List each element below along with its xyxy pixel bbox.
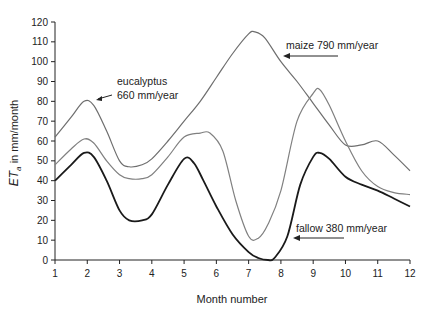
- x-tick-label: 7: [246, 268, 252, 279]
- y-tick-label: 0: [42, 255, 48, 266]
- annotation-maize: maize 790 mm/year: [283, 39, 379, 59]
- tick-labels: 0102030405060708090100110120123456789101…: [31, 17, 416, 280]
- y-tick-label: 100: [31, 56, 48, 67]
- x-tick-label: 10: [340, 268, 352, 279]
- y-tick-label: 20: [37, 215, 49, 226]
- annotation-fallow: fallow 380 mm/year: [293, 222, 388, 241]
- series-line-eucalyptus: [55, 88, 410, 240]
- arrow-head-icon: [293, 235, 300, 241]
- x-tick-label: 5: [181, 268, 187, 279]
- x-tick-label: 4: [149, 268, 155, 279]
- annotation-maize-text: maize 790 mm/year: [286, 39, 379, 51]
- y-tick-label: 80: [37, 96, 49, 107]
- x-tick-label: 9: [310, 268, 316, 279]
- annotation-eucalyptus: eucalyptus 660 mm/year: [96, 75, 179, 101]
- x-tick-label: 8: [278, 268, 284, 279]
- arrow-head-icon: [283, 53, 290, 59]
- y-tick-label: 70: [37, 116, 49, 127]
- series-line-maize: [55, 31, 410, 170]
- annotation-eucalyptus-line1: eucalyptus: [117, 75, 167, 87]
- x-tick-label: 2: [84, 268, 90, 279]
- y-tick-label: 120: [31, 17, 48, 28]
- y-label-rest: in mm/month: [8, 100, 20, 167]
- y-tick-label: 110: [32, 36, 48, 47]
- annotation-eucalyptus-line2: 660 mm/year: [117, 89, 179, 101]
- x-tick-label: 3: [117, 268, 123, 279]
- y-tick-label: 30: [37, 195, 49, 206]
- x-axis-label: Month number: [197, 293, 268, 305]
- x-tick-label: 6: [214, 268, 220, 279]
- series-line-fallow: [55, 152, 410, 260]
- x-tick-label: 12: [404, 268, 416, 279]
- x-tick-label: 1: [52, 268, 58, 279]
- y-tick-label: 90: [37, 76, 49, 87]
- arrow-head-icon: [96, 96, 102, 101]
- annotation-fallow-text: fallow 380 mm/year: [296, 222, 388, 234]
- y-tick-label: 10: [37, 235, 49, 246]
- y-axis-label: ETa in mm/month: [7, 100, 23, 186]
- y-tick-label: 60: [37, 136, 49, 147]
- x-tick-label: 11: [373, 268, 384, 279]
- line-chart: 0102030405060708090100110120123456789101…: [0, 0, 429, 319]
- y-tick-label: 40: [37, 175, 49, 186]
- y-tick-label: 50: [37, 155, 49, 166]
